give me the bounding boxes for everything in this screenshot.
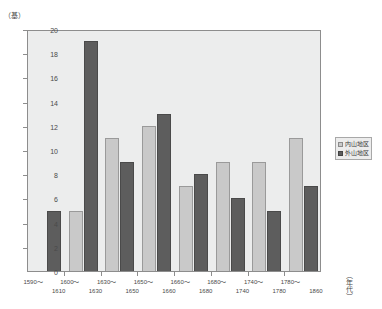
legend-label: 外山地区 [345,149,369,157]
bar-toyama [157,114,171,271]
bar-toyama [231,198,245,271]
bar-uchiyama [105,138,119,271]
x-axis-tick-mark [64,272,65,276]
bar-toyama [194,174,208,271]
x-axis-tick-label: 1780～1860 [277,278,329,296]
y-axis-tick-mark [23,248,27,249]
y-axis-tick-label: 2 [38,244,58,251]
y-axis-tick-label: 8 [38,172,58,179]
y-axis-tick-mark [23,175,27,176]
bar-uchiyama [142,126,156,271]
chart-title-strip [60,0,322,9]
y-axis-tick-label: 20 [38,27,58,34]
y-axis-tick-mark [23,78,27,79]
bar-toyama [84,41,98,271]
y-axis-tick-mark [23,127,27,128]
chart-legend: 内山地区外山地区 [335,137,372,160]
y-axis-tick-label: 4 [38,220,58,227]
y-axis-tick-label: 18 [38,51,58,58]
y-axis-tick-label: 14 [38,99,58,106]
bar-uchiyama [252,162,266,271]
y-axis-tick-label: 12 [38,123,58,130]
chart-root: （基） 20181614121086420 1590～16101600～1630… [0,0,382,309]
x-axis-tick-mark [284,272,285,276]
y-axis-tick-mark [23,30,27,31]
y-axis-tick-mark [23,103,27,104]
x-axis-tick-mark [137,272,138,276]
bar-toyama [120,162,134,271]
legend-swatch-icon [338,151,343,156]
x-label-line-top: 1780～ [277,278,329,287]
plot-inner [28,31,320,271]
x-axis-tick-mark [174,272,175,276]
bar-toyama [304,186,318,271]
y-axis-tick-mark [23,224,27,225]
x-axis-tick-mark [101,272,102,276]
legend-item: 外山地区 [338,149,369,157]
bar-uchiyama [216,162,230,271]
bar-uchiyama [289,138,303,271]
bar-uchiyama [69,211,83,272]
y-axis-tick-label: 0 [38,269,58,276]
x-axis-tick-mark [211,272,212,276]
y-axis-unit-label: （基） [4,10,25,20]
y-axis-tick-mark [23,54,27,55]
y-axis-tick-label: 6 [38,196,58,203]
bar-uchiyama [179,186,193,271]
y-axis-tick-mark [23,199,27,200]
legend-item: 内山地区 [338,140,369,148]
x-axis-title: （年代） [345,272,353,300]
x-label-line-bottom: 1860 [277,287,329,296]
legend-swatch-icon [338,142,343,147]
x-axis-tick-mark [248,272,249,276]
legend-label: 内山地区 [345,140,369,148]
y-axis-tick-label: 16 [38,75,58,82]
y-axis-tick-label: 10 [38,148,58,155]
bar-toyama [267,211,281,272]
y-axis-tick-mark [23,151,27,152]
plot-area [27,30,321,272]
